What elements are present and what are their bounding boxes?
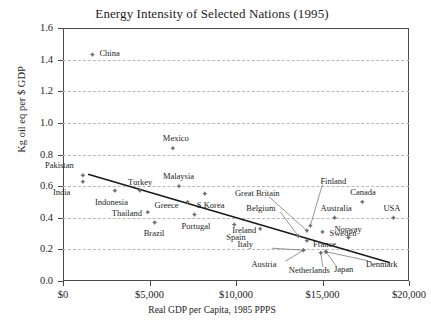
data-layer: ChinaMexicoPakistanIndiaIndonesiaTurkeyM… bbox=[63, 28, 409, 281]
label-leader-line bbox=[269, 197, 307, 231]
x-axis-title: Real GDP per Capita, 1985 PPPS bbox=[0, 305, 424, 315]
point-label: Canada bbox=[350, 188, 376, 197]
x-tick-label: $15,000 bbox=[288, 289, 358, 300]
point-label: USA bbox=[383, 204, 400, 213]
x-tick-mark bbox=[63, 281, 64, 286]
y-tick-label: 0.4 bbox=[21, 212, 53, 223]
point-label: Ireland bbox=[232, 226, 256, 235]
point-label: Italy bbox=[237, 240, 253, 249]
point-label: Portugal bbox=[181, 222, 210, 231]
point-label: Pakistan bbox=[45, 161, 74, 170]
y-tick-label: 0.2 bbox=[21, 243, 53, 254]
point-label: Australia bbox=[321, 204, 352, 213]
label-leader-line bbox=[326, 252, 368, 261]
point-label: China bbox=[99, 49, 119, 58]
point-label: Denmark bbox=[366, 260, 398, 269]
y-axis-title: Kg oil eq per $ GDP bbox=[16, 35, 27, 185]
x-tick-label: $10,000 bbox=[201, 289, 271, 300]
point-label: Turkey bbox=[128, 178, 152, 187]
point-label: Belgium bbox=[246, 204, 275, 213]
point-label: Malaysia bbox=[163, 172, 194, 181]
x-tick-label: $20,000 bbox=[374, 289, 431, 300]
trendline-and-leaders bbox=[63, 28, 409, 281]
point-label: Thailand bbox=[112, 209, 142, 218]
x-tick-mark bbox=[409, 281, 410, 286]
point-label: Finland bbox=[320, 177, 346, 186]
point-label: Netherlands bbox=[289, 266, 330, 275]
point-label: Norway bbox=[334, 225, 361, 234]
x-tick-label: $0 bbox=[28, 289, 98, 300]
point-label: S.Korea bbox=[197, 201, 225, 210]
label-leader-line bbox=[285, 250, 303, 261]
point-label: India bbox=[53, 188, 70, 197]
chart-title: Energy Intensity of Selected Nations (19… bbox=[0, 6, 424, 22]
y-tick-label: 0.0 bbox=[21, 275, 53, 286]
point-label: Indonesia bbox=[95, 198, 128, 207]
x-tick-mark bbox=[323, 281, 324, 286]
label-leader-line bbox=[280, 212, 298, 236]
point-label: Great Britain bbox=[235, 189, 280, 198]
label-leader-line bbox=[271, 248, 303, 250]
x-tick-label: $5,000 bbox=[115, 289, 185, 300]
point-label: Greece bbox=[155, 201, 179, 210]
y-tick-label: 1.6 bbox=[21, 22, 53, 33]
point-label: France bbox=[313, 240, 336, 249]
point-label: Austria bbox=[251, 260, 276, 269]
point-label: Japan bbox=[334, 265, 353, 274]
point-label: Brazil bbox=[144, 229, 165, 238]
point-label: Mexico bbox=[163, 134, 189, 143]
x-tick-mark bbox=[150, 281, 151, 286]
x-tick-mark bbox=[236, 281, 237, 286]
